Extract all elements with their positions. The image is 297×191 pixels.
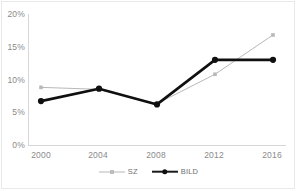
x-tick-label-2008: 2008	[146, 150, 166, 160]
data-point-sz-2012[interactable]	[213, 72, 217, 76]
x-tick-label-2004: 2004	[88, 150, 108, 160]
chart-legend: SZ BILD	[0, 167, 297, 176]
plot-area	[28, 14, 286, 145]
data-point-bild-2000[interactable]	[38, 98, 44, 104]
y-tick-label-20: 20%	[7, 9, 25, 19]
y-axis-tick-labels: 20% 15% 10% 5% 0%	[0, 0, 25, 191]
y-tick-label-15: 15%	[7, 42, 25, 52]
series-group	[28, 14, 286, 145]
x-tick-label-2000: 2000	[31, 150, 51, 160]
legend-item-bild[interactable]: BILD	[152, 167, 198, 176]
sz-legend-marker	[99, 167, 125, 176]
x-axis-line	[28, 145, 286, 146]
series-bild	[38, 57, 276, 108]
line-chart: 20% 15% 10% 5% 0% 2000 2004 2008 2012 20…	[0, 0, 297, 191]
data-point-sz-2016[interactable]	[271, 33, 275, 37]
data-point-bild-2004[interactable]	[96, 86, 102, 92]
data-point-sz-2000[interactable]	[39, 86, 43, 90]
x-tick-label-2016: 2016	[262, 150, 282, 160]
x-tick-label-2012: 2012	[204, 150, 224, 160]
y-tick-label-5: 5%	[12, 107, 25, 117]
legend-label-bild: BILD	[181, 167, 198, 176]
y-tick-label-0: 0%	[12, 140, 25, 150]
legend-label-sz: SZ	[128, 167, 138, 176]
data-point-bild-2008[interactable]	[154, 101, 160, 107]
data-point-bild-2016[interactable]	[270, 57, 276, 63]
bild-legend-marker	[152, 167, 178, 176]
series-line-bild	[41, 60, 273, 105]
legend-item-sz[interactable]: SZ	[99, 167, 138, 176]
data-point-bild-2012[interactable]	[212, 57, 218, 63]
y-tick-label-10: 10%	[7, 75, 25, 85]
